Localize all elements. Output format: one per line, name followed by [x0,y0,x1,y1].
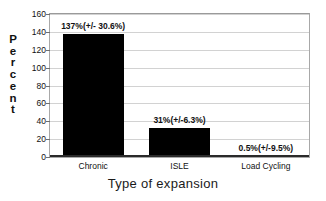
y-axis-title-letter: t [11,104,15,116]
bar-data-label: 31%(+/-6.3%) [153,115,205,125]
bar [149,128,210,156]
y-axis-tick-mark [46,103,50,104]
x-axis-category-label: Chronic [79,161,108,171]
x-axis-category-label: Load Cycling [241,161,290,171]
y-axis-tick-mark [46,86,50,87]
bar-data-label: 0.5%(+/-9.5%) [239,143,294,153]
plot-frame [49,13,310,158]
gridline [50,14,309,15]
y-axis-tick-label: 120 [32,45,46,55]
x-axis-baseline [50,155,309,157]
y-axis-title-letter: P [9,34,17,46]
y-axis-tick-label: 140 [32,27,46,37]
y-axis-tick-mark [46,14,50,15]
y-axis-title-letter: e [10,81,16,93]
y-axis-tick-mark [46,50,50,51]
y-axis-tick-mark [46,157,50,158]
y-axis-tick-label: 20 [37,134,46,144]
y-axis-tick-label: 100 [32,63,46,73]
y-axis-tick-mark [46,68,50,69]
y-axis-tick-mark [46,121,50,122]
y-axis-tick-label: 160 [32,9,46,19]
y-axis-tick-label: 60 [37,98,46,108]
y-axis-tick-label: 40 [37,116,46,126]
bar-chart: P e r c e n t 020406080100120140160 Type… [0,0,326,201]
bar [63,34,124,156]
x-axis-title: Type of expansion [0,176,326,191]
y-axis-tick-label: 80 [37,81,46,91]
x-axis-category-label: ISLE [170,161,188,171]
y-axis-tick-mark [46,32,50,33]
y-axis-tick-labels: 020406080100120140160 [21,13,46,158]
y-axis-tick-mark [46,139,50,140]
plot-area [50,14,309,157]
bar-data-label: 137%(+/- 30.6%) [61,21,125,31]
